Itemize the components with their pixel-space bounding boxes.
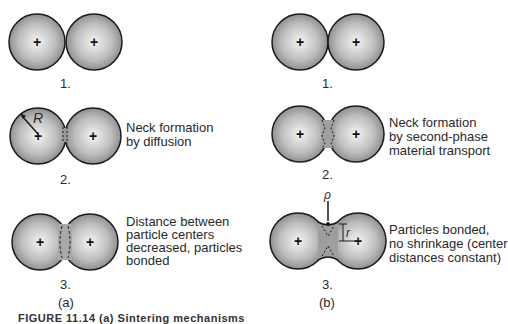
particle-pair-b1 (272, 14, 384, 70)
svg-text:+: + (86, 234, 94, 250)
particle-pair-a1 (9, 14, 122, 70)
svg-text:+: + (90, 34, 98, 50)
svg-text:+: + (33, 34, 41, 50)
description-line: material transport (389, 144, 490, 158)
particle-pair-b3 (270, 201, 386, 269)
step-number-a1: 1. (60, 76, 71, 91)
svg-text:+: + (352, 126, 360, 142)
step-number-b2: 2. (322, 167, 333, 182)
description-line: Neck formation (389, 116, 476, 130)
particle-pair-a2 (10, 108, 121, 164)
svg-text:+: + (352, 34, 360, 50)
radius-label: R (33, 111, 43, 125)
panel-label-a: (a) (58, 295, 74, 310)
particle-pair-a3 (12, 214, 118, 270)
step-number-a3: 3. (60, 277, 71, 292)
description-line: bonded (126, 254, 169, 268)
svg-text:+: + (296, 34, 304, 50)
description-line: Neck formation (126, 121, 213, 135)
figure-caption: FIGURE 11.14 (a) Sintering mechanisms (18, 312, 245, 324)
panel-label-b: (b) (319, 295, 335, 310)
svg-text:+: + (89, 128, 97, 144)
rho-label: ρ (324, 188, 331, 202)
description-line: by diffusion (126, 135, 192, 149)
r-label: r (346, 226, 350, 240)
description-line: no shrinkage (center (389, 237, 508, 251)
description-line: Particles bonded, (389, 223, 489, 237)
step-number-b3: 3. (322, 277, 333, 292)
particle-pair-b2 (272, 106, 384, 162)
svg-text:+: + (294, 233, 302, 249)
description-line: distances constant) (389, 251, 501, 265)
svg-text:+: + (354, 233, 362, 249)
description-line: by second-phase (389, 130, 488, 144)
svg-text:+: + (36, 234, 44, 250)
step-number-a2: 2. (60, 172, 71, 187)
svg-text:+: + (34, 128, 42, 144)
svg-text:+: + (296, 126, 304, 142)
step-number-b1: 1. (322, 76, 333, 91)
